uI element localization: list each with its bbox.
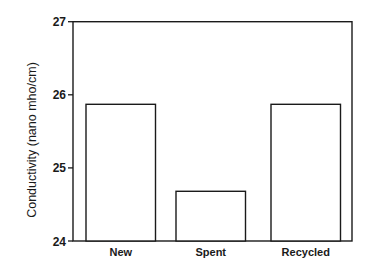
y-tick-label: 26	[53, 88, 67, 102]
y-tick-label: 25	[53, 161, 67, 175]
x-label-new: New	[109, 246, 132, 258]
y-tick-label: 27	[53, 15, 67, 29]
x-label-spent: Spent	[195, 246, 226, 258]
x-axis-labels: NewSpentRecycled	[109, 246, 329, 258]
bar-chart: 24252627 NewSpentRecycled Conductivity (…	[0, 0, 372, 276]
y-axis-title: Conductivity (nano mho/cm)	[25, 62, 39, 218]
bar-new	[86, 104, 156, 241]
y-tick-label: 24	[53, 235, 67, 249]
x-label-recycled: Recycled	[282, 246, 330, 258]
bar-recycled	[271, 104, 341, 241]
y-axis-ticks: 24252627	[53, 15, 73, 248]
bar-spent	[176, 191, 246, 241]
bars	[86, 104, 341, 241]
